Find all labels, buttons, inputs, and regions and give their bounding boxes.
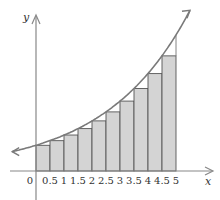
- rectangle-bar: [36, 145, 50, 171]
- riemann-sum-chart: y x 00.511.522.533.544.55: [0, 0, 220, 200]
- x-tick-label: 0.5: [42, 175, 58, 186]
- x-tick-label: 1.5: [70, 175, 86, 186]
- y-axis-label: y: [22, 11, 30, 24]
- rectangle-bar: [78, 129, 92, 171]
- curve-left-arrow-icon: [12, 148, 19, 156]
- rectangle-bar: [162, 56, 176, 171]
- rectangle-bar: [92, 121, 106, 171]
- x-tick-label: 0: [27, 175, 33, 186]
- x-tick-label: 5: [173, 175, 179, 186]
- x-tick-label: 4.5: [154, 175, 170, 186]
- x-axis-label: x: [205, 175, 212, 188]
- x-tick-label: 1: [61, 175, 67, 186]
- rectangle-bar: [134, 89, 148, 171]
- rectangle-bar: [64, 135, 78, 171]
- rectangle-bar: [106, 112, 120, 171]
- x-tick-label: 4: [145, 175, 151, 186]
- rectangle-bar: [50, 141, 64, 171]
- rectangles: [36, 56, 176, 171]
- x-tick-labels: 00.511.522.533.544.55: [27, 175, 179, 186]
- x-tick-label: 3.5: [126, 175, 142, 186]
- rectangle-bar: [120, 101, 134, 171]
- x-tick-label: 2.5: [98, 175, 114, 186]
- rectangle-bar: [148, 74, 162, 171]
- x-tick-label: 2: [89, 175, 95, 186]
- x-tick-label: 3: [117, 175, 123, 186]
